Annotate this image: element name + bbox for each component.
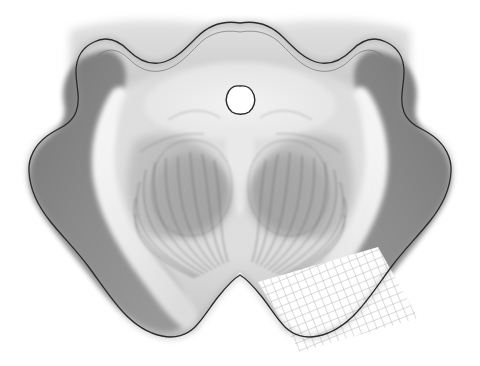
anatomical-figure [0, 0, 480, 366]
anatomy-svg [0, 0, 480, 366]
cerebral-aqueduct [226, 86, 255, 114]
